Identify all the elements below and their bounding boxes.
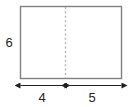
- height-label: 6: [5, 35, 12, 50]
- base-left-label: 4: [38, 90, 45, 105]
- geometry-figure: 6 4 5: [0, 0, 132, 107]
- rectangle-outline: [21, 7, 122, 79]
- rectangle-diagram-svg: 6 4 5: [0, 0, 132, 107]
- base-right-label: 5: [88, 90, 95, 105]
